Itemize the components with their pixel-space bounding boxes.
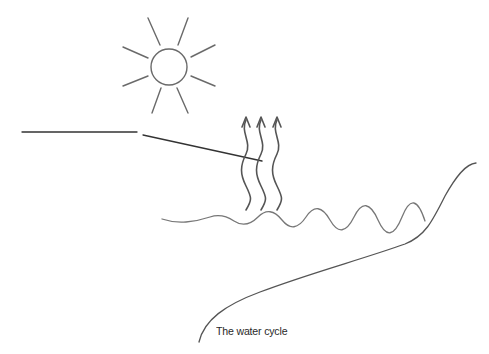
label-pointer-line (22, 132, 262, 161)
diagram-caption: The water cycle (216, 325, 287, 337)
sun-icon (123, 18, 215, 113)
evaporation-arrows (242, 117, 282, 210)
evaporation-arrow-icon (273, 117, 282, 210)
evaporation-arrow-icon (242, 117, 251, 210)
water-cycle-diagram (0, 0, 489, 354)
water-surface-wave (162, 203, 425, 233)
evaporation-arrow-icon (257, 117, 266, 210)
land-slope-line (199, 163, 476, 342)
